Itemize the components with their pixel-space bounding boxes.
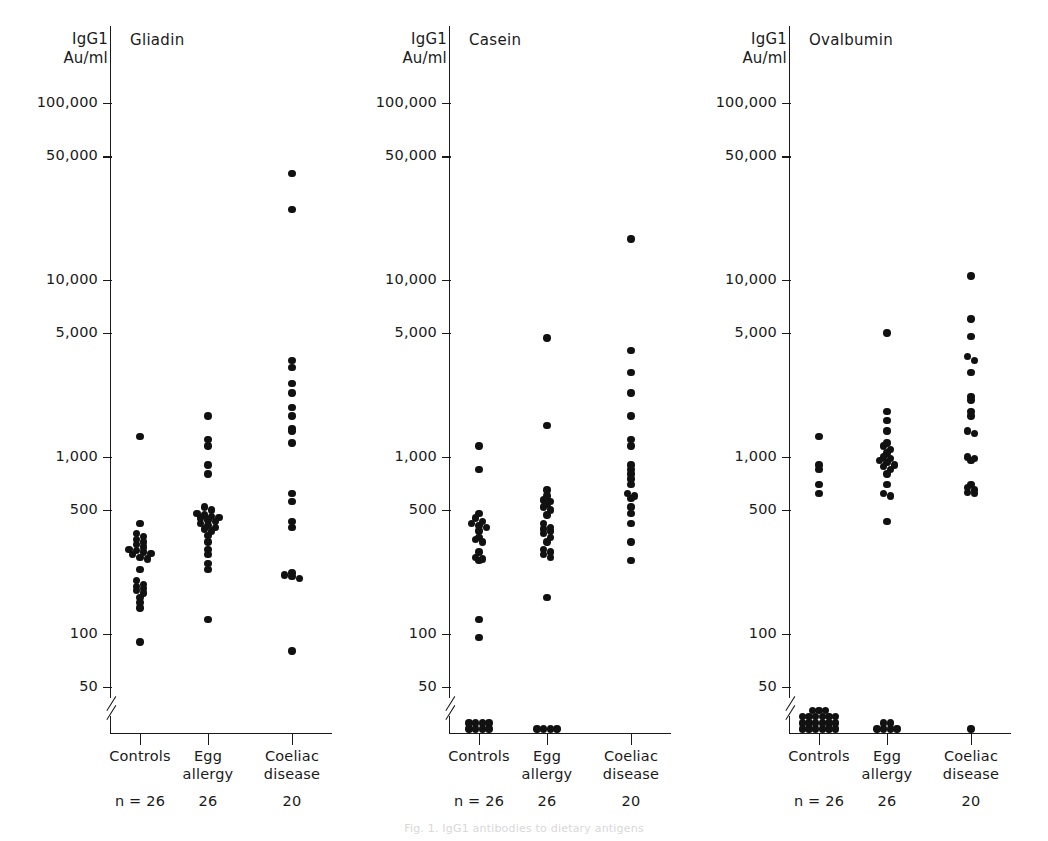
data-point	[204, 616, 211, 623]
y-axis-tick	[442, 103, 451, 104]
data-point	[540, 503, 547, 510]
data-point	[288, 389, 295, 396]
data-point-below-detection	[967, 725, 974, 732]
data-point	[136, 566, 143, 573]
data-point	[627, 389, 634, 396]
data-point	[967, 412, 974, 419]
y-axis-tick-label: 1,000	[347, 448, 437, 464]
y-axis-tick-label: 1,000	[687, 448, 777, 464]
data-point	[288, 364, 295, 371]
y-axis-tick-label: 100	[687, 625, 777, 641]
data-point	[627, 520, 634, 527]
y-axis-tick-label: 50,000	[687, 147, 777, 163]
y-axis-tick-label: 500	[687, 501, 777, 517]
y-axis-line-lower	[110, 716, 111, 734]
x-axis-tick	[887, 734, 888, 745]
y-axis-tick-label: 500	[8, 501, 98, 517]
data-point	[288, 524, 295, 531]
y-axis-tick-label: 100	[8, 625, 98, 641]
plot-area-ovalbumin: 501005001,0005,00010,00050,000100,000Con…	[679, 0, 1028, 800]
data-point	[475, 616, 482, 623]
y-axis-tick	[442, 280, 451, 281]
data-point	[883, 470, 890, 477]
x-axis-line	[789, 733, 1011, 734]
y-axis-tick	[442, 333, 451, 334]
y-axis-tick-label: 5,000	[687, 324, 777, 340]
panel-gliadin: IgG1 Au/ml Gliadin 501005001,0005,00010,…	[0, 0, 349, 800]
data-point	[475, 442, 482, 449]
x-axis-tick	[208, 734, 209, 745]
data-point	[475, 466, 482, 473]
y-axis-tick	[782, 634, 791, 635]
data-point	[540, 530, 547, 537]
data-point	[971, 430, 978, 437]
data-point	[204, 470, 211, 477]
y-axis-tick	[442, 457, 451, 458]
y-axis-tick-label: 10,000	[8, 271, 98, 287]
data-point	[627, 369, 634, 376]
data-point	[483, 524, 490, 531]
plot-area-gliadin: 501005001,0005,00010,00050,000100,000Con…	[0, 0, 349, 800]
data-point	[964, 427, 971, 434]
y-axis-tick-label: 50	[687, 678, 777, 694]
data-point	[136, 433, 143, 440]
y-axis-tick	[103, 457, 112, 458]
y-axis-tick-label: 100,000	[347, 94, 437, 110]
data-point	[967, 396, 974, 403]
data-point	[288, 427, 295, 434]
data-point	[201, 503, 208, 510]
y-axis-tick-label: 50,000	[8, 147, 98, 163]
y-axis-tick	[782, 280, 791, 281]
group-sample-size: 20	[240, 793, 344, 809]
data-point	[136, 604, 143, 611]
data-point	[475, 634, 482, 641]
data-point	[964, 489, 971, 496]
data-point	[144, 555, 151, 562]
x-axis-tick	[140, 734, 141, 745]
data-point	[880, 463, 887, 470]
data-point	[883, 427, 890, 434]
data-point	[883, 481, 890, 488]
x-axis-tick	[819, 734, 820, 745]
y-axis-tick-label: 10,000	[347, 271, 437, 287]
data-point	[296, 575, 303, 582]
y-axis-tick	[103, 156, 112, 157]
data-point-below-detection	[485, 719, 492, 726]
x-axis-line	[110, 733, 332, 734]
data-point	[543, 511, 550, 518]
panel-ovalbumin: IgG1 Au/ml Ovalbumin 501005001,0005,0001…	[679, 0, 1028, 800]
x-axis-line	[449, 733, 671, 734]
y-axis-line	[789, 26, 790, 698]
data-point	[967, 333, 974, 340]
data-point	[627, 442, 634, 449]
data-point	[967, 457, 974, 464]
data-point-below-detection	[832, 719, 839, 726]
data-point	[815, 481, 822, 488]
data-point	[288, 404, 295, 411]
data-point	[204, 551, 211, 558]
y-axis-tick	[782, 103, 791, 104]
data-point	[472, 536, 479, 543]
y-axis-tick	[103, 687, 112, 688]
data-point	[880, 490, 887, 497]
x-axis-tick	[292, 734, 293, 745]
plot-area-casein: 501005001,0005,00010,00050,000100,000Con…	[339, 0, 688, 800]
y-axis-tick	[103, 333, 112, 334]
data-point	[288, 439, 295, 446]
data-point	[204, 442, 211, 449]
data-point	[883, 408, 890, 415]
data-point	[967, 369, 974, 376]
y-axis-tick-label: 50	[347, 678, 437, 694]
data-point	[136, 554, 143, 561]
data-point	[815, 433, 822, 440]
x-axis-group-label: Coeliac disease	[919, 748, 1023, 784]
panel-casein: IgG1 Au/ml Casein 501005001,0005,00010,0…	[339, 0, 688, 800]
data-point	[971, 357, 978, 364]
data-point	[627, 347, 634, 354]
x-axis-tick	[631, 734, 632, 745]
data-point	[129, 551, 136, 558]
data-point	[281, 571, 288, 578]
x-axis-tick	[547, 734, 548, 745]
y-axis-tick-label: 50,000	[347, 147, 437, 163]
y-axis-tick	[442, 510, 451, 511]
